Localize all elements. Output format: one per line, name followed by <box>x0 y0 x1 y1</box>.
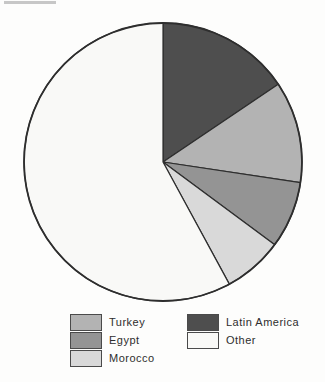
legend-item-morocco: Morocco <box>70 350 155 367</box>
legend-swatch-morocco <box>70 350 102 367</box>
legend-item-turkey: Turkey <box>70 314 145 331</box>
legend-swatch-egypt <box>70 332 102 349</box>
legend-label-latin-america: Latin America <box>226 314 299 331</box>
legend-swatch-latin-america <box>187 314 219 331</box>
legend-swatch-other <box>187 332 219 349</box>
legend-item-other: Other <box>187 332 256 349</box>
legend-swatch-turkey <box>70 314 102 331</box>
legend-item-egypt: Egypt <box>70 332 140 349</box>
legend-label-morocco: Morocco <box>109 350 155 367</box>
legend-label-other: Other <box>226 332 256 349</box>
pie-chart-figure: Turkey Egypt Morocco Latin America Other <box>0 0 325 382</box>
legend-item-latin-america: Latin America <box>187 314 299 331</box>
legend-label-turkey: Turkey <box>109 314 145 331</box>
legend-label-egypt: Egypt <box>109 332 140 349</box>
